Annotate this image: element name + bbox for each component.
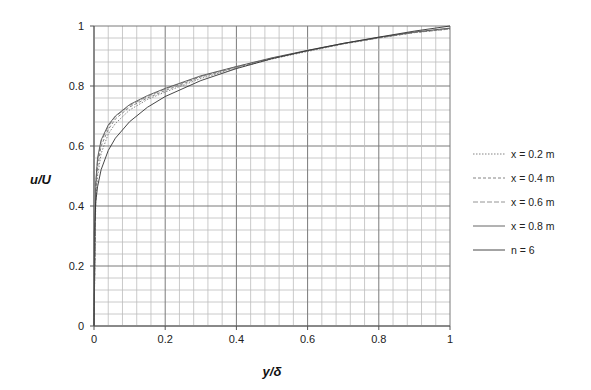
x-tick-label: 1: [447, 333, 453, 345]
y-tick-label: 0: [78, 320, 84, 332]
x-tick-label: 0.6: [300, 333, 315, 345]
x-tick-label: 0: [91, 333, 97, 345]
legend: x = 0.2 mx = 0.4 mx = 0.6 mx = 0.8 mn = …: [473, 148, 555, 256]
legend-label: x = 0.8 m: [511, 220, 555, 232]
grid: [94, 26, 450, 326]
series-line-0: [94, 29, 450, 326]
y-tick-label: 0.8: [69, 80, 84, 92]
y-tick-label: 0.4: [69, 200, 84, 212]
series-line-2: [94, 28, 450, 326]
y-tick-label: 1: [78, 20, 84, 32]
series-line-3: [94, 28, 450, 326]
series-group: [94, 26, 450, 326]
series-line-1: [94, 29, 450, 326]
x-tick-label: 0.4: [229, 333, 244, 345]
legend-label: n = 6: [511, 244, 535, 256]
x-axis-label: y/δ: [262, 364, 282, 379]
y-axis-label: u/U: [30, 172, 52, 187]
legend-label: x = 0.2 m: [511, 148, 555, 160]
series-line-4: [94, 26, 450, 326]
axes: 00.20.40.60.8100.20.40.60.81: [69, 20, 453, 345]
legend-label: x = 0.6 m: [511, 196, 555, 208]
x-tick-label: 0.8: [371, 333, 386, 345]
line-chart: 00.20.40.60.8100.20.40.60.81 u/U y/δ x =…: [0, 0, 591, 390]
y-tick-label: 0.2: [69, 260, 84, 272]
y-tick-label: 0.6: [69, 140, 84, 152]
legend-label: x = 0.4 m: [511, 172, 555, 184]
x-tick-label: 0.2: [158, 333, 173, 345]
